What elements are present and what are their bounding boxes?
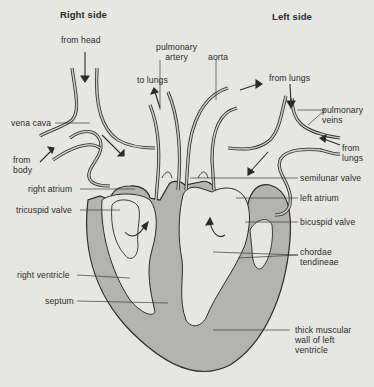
label-from-body: from body — [13, 155, 32, 175]
label-septum: septum — [45, 296, 74, 306]
left-side-heading: Left side — [272, 12, 312, 22]
label-left-atrium: left atrium — [300, 193, 339, 203]
label-pulmonary-veins: pulmonary veins — [322, 105, 363, 125]
label-chordae-tendineae: chordae tendineae — [300, 247, 339, 267]
label-vena-cava: vena cava — [11, 118, 51, 128]
label-right-atrium: right atrium — [28, 184, 72, 194]
right-side-heading: Right side — [60, 10, 107, 20]
label-right-ventricle: right ventricle — [17, 270, 70, 280]
label-from-lungs-top: from lungs — [269, 73, 310, 83]
label-aorta: aorta — [208, 52, 228, 62]
semilunar-valve — [162, 172, 208, 178]
heart-diagram: Right side Left side from head pulmonary… — [0, 0, 374, 387]
label-to-lungs: to lungs — [137, 75, 168, 85]
label-tricuspid-valve: tricuspid valve — [16, 205, 72, 215]
label-pulmonary-artery: pulmonary artery — [156, 42, 197, 62]
label-semilunar-valve: semilunar valve — [300, 173, 361, 183]
label-thick-muscular-wall: thick muscular wall of left ventricle — [295, 325, 351, 355]
label-from-lungs-right: from lungs — [342, 143, 363, 163]
right-atrium-wall — [70, 132, 110, 187]
label-bicuspid-valve: bicuspid valve — [300, 217, 355, 227]
label-from-head: from head — [61, 35, 101, 45]
